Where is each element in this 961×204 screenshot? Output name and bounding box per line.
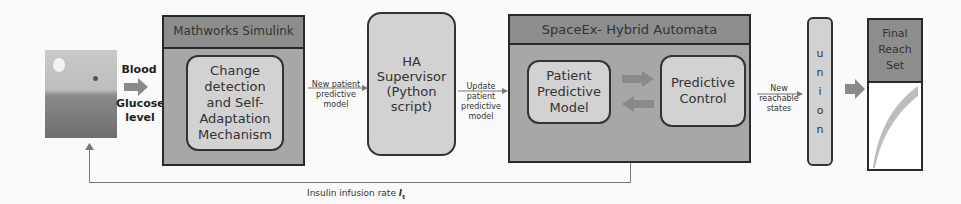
arrow-icon xyxy=(757,91,803,97)
feedback-label: Insulin infusion rate It xyxy=(307,188,405,200)
change-detection-box: Changedetectionand Self-AdaptationMechan… xyxy=(186,55,284,151)
arrow-right-icon xyxy=(622,71,656,87)
feedback-line xyxy=(89,182,631,183)
patient-photo xyxy=(45,50,117,138)
simulink-title: Mathworks Simulink xyxy=(164,17,303,49)
predictive-control-box: PredictiveControl xyxy=(660,55,746,127)
patient-model-box: PatientPredictiveModel xyxy=(527,60,611,124)
arrow-left-icon xyxy=(622,96,656,112)
spaceex-block: SpaceEx- Hybrid Automata PatientPredicti… xyxy=(508,14,751,163)
arrow-icon xyxy=(308,85,368,91)
final-reach-set: FinalReachSet xyxy=(867,18,923,171)
feedback-line xyxy=(89,148,90,183)
level-label: level xyxy=(118,111,162,125)
arrow-right-icon xyxy=(845,79,865,99)
edge-label-reachable: Newreachablestates xyxy=(752,84,806,114)
glucose-label: Glucose xyxy=(116,97,164,111)
union-box: union xyxy=(807,17,833,166)
arrow-icon xyxy=(458,88,508,94)
feedback-line xyxy=(630,163,631,182)
simulink-block: Mathworks Simulink Changedetectionand Se… xyxy=(162,15,305,166)
spaceex-title: SpaceEx- Hybrid Automata xyxy=(510,16,749,45)
final-title: FinalReachSet xyxy=(869,20,921,83)
arrow-right-icon xyxy=(124,78,150,96)
blood-label: Blood xyxy=(118,63,160,77)
arrow-up-icon xyxy=(85,143,94,150)
reach-set-plot xyxy=(869,82,921,170)
ha-supervisor-box: HASupervisor(Pythonscript) xyxy=(367,12,456,156)
